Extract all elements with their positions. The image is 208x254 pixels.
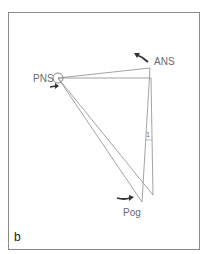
panel-label: b [14,230,21,244]
pns-arrowhead-icon [55,83,59,89]
pog-rotation-arrow-icon [117,198,130,199]
cephalometric-diagram [0,0,208,254]
pog-label: Pog [123,207,141,218]
pns-label: PNS [33,73,54,84]
ans-label: ANS [154,56,175,67]
ans-pog-line-original [151,78,153,195]
palatal-plane-rotated [58,68,150,78]
pog-arrowhead-icon [129,195,134,201]
ans-rotation-arrow-icon [137,55,148,62]
pns-pog-line-original [58,78,153,195]
angle-label: 1 [146,131,150,138]
pns-pog-line-rotated [58,78,142,202]
